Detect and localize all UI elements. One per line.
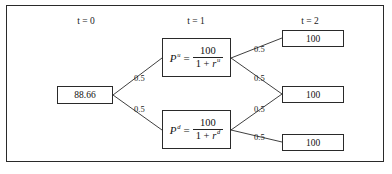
down-state-fraction: 100 1 + rd bbox=[193, 118, 224, 142]
down-state-lhs-superscript: d bbox=[177, 123, 180, 130]
column-header-t0: t = 0 bbox=[46, 16, 126, 26]
up-state-lhs-symbol: P bbox=[170, 52, 177, 64]
column-header-t0-label: t = 0 bbox=[77, 16, 95, 26]
terminal-node-box[interactable]: 100 bbox=[282, 86, 344, 103]
down-state-den-one: 1 + bbox=[196, 130, 210, 141]
up-state-numerator: 100 bbox=[197, 46, 219, 58]
up-state-equals: = bbox=[184, 52, 190, 64]
up-state-equation: Pu = 100 1 + ru bbox=[170, 46, 223, 70]
prob-root-down: 0.5 bbox=[134, 104, 145, 114]
down-state-rate-symbol: r bbox=[212, 130, 216, 141]
terminal-node-value: 100 bbox=[306, 138, 320, 148]
column-header-t1: t = 1 bbox=[156, 16, 236, 26]
down-state-numerator: 100 bbox=[197, 118, 219, 130]
up-state-lhs: Pu bbox=[170, 52, 181, 64]
prob-root-up: 0.5 bbox=[134, 73, 145, 83]
prob-up-down: 0.5 bbox=[254, 73, 265, 83]
down-state-rate-superscript: d bbox=[217, 129, 220, 136]
up-state-rate-symbol: r bbox=[212, 58, 216, 69]
prob-up-up: 0.5 bbox=[254, 44, 265, 54]
terminal-node-value: 100 bbox=[306, 34, 320, 44]
down-state-lhs-symbol: P bbox=[170, 124, 177, 136]
up-state-price-box[interactable]: Pu = 100 1 + ru bbox=[162, 38, 231, 77]
root-node-box[interactable]: 88.66 bbox=[57, 86, 113, 104]
down-state-equals: = bbox=[184, 124, 190, 136]
column-header-t2-label: t = 2 bbox=[301, 16, 319, 26]
down-state-price-box[interactable]: Pd = 100 1 + rd bbox=[162, 110, 231, 149]
down-state-rate: rd bbox=[210, 130, 221, 141]
up-state-lhs-superscript: u bbox=[177, 51, 180, 58]
up-state-denominator: 1 + ru bbox=[193, 58, 224, 70]
root-node-value: 88.66 bbox=[74, 90, 95, 100]
terminal-node-box[interactable]: 100 bbox=[282, 134, 344, 151]
down-state-lhs: Pd bbox=[170, 124, 181, 136]
terminal-node-box[interactable]: 100 bbox=[282, 30, 344, 47]
column-header-t2: t = 2 bbox=[270, 16, 350, 26]
up-state-rate: ru bbox=[210, 58, 221, 69]
diagram-canvas: t = 0 t = 1 t = 2 88.66 Pu = 100 1 + ru … bbox=[0, 0, 392, 174]
prob-down-up: 0.5 bbox=[254, 104, 265, 114]
prob-down-down: 0.5 bbox=[254, 132, 265, 142]
up-state-rate-superscript: u bbox=[217, 57, 220, 64]
terminal-node-value: 100 bbox=[306, 90, 320, 100]
down-state-equation: Pd = 100 1 + rd bbox=[170, 118, 223, 142]
down-state-denominator: 1 + rd bbox=[193, 130, 224, 142]
up-state-den-one: 1 + bbox=[196, 58, 210, 69]
column-header-t1-label: t = 1 bbox=[187, 16, 205, 26]
up-state-fraction: 100 1 + ru bbox=[193, 46, 224, 70]
